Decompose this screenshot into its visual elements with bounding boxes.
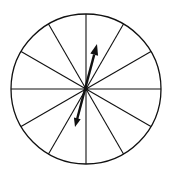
spinner-diagram [0,0,169,173]
spinner-hub [84,87,88,91]
